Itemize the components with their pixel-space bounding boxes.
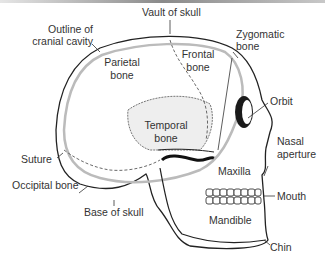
- label-vault-of-skull: Vault of skull: [142, 7, 201, 18]
- label-mouth: Mouth: [277, 191, 306, 202]
- label-chin: Chin: [270, 242, 292, 253]
- label-zygomatic-line1: Zygomatic: [236, 29, 284, 40]
- label-maxilla: Maxilla: [218, 166, 251, 177]
- label-frontal-line2: bone: [177, 62, 219, 73]
- label-zygomatic-line2: bone: [236, 41, 259, 52]
- label-occipital-bone: Occipital bone: [12, 180, 79, 191]
- label-parietal-line1: Parietal: [100, 57, 144, 68]
- label-outline-line2: cranial cavity: [20, 36, 93, 47]
- label-temporal-line2: bone: [140, 133, 192, 144]
- label-nasal-line1: Nasal: [277, 136, 304, 147]
- label-temporal-line1: Temporal: [140, 120, 192, 131]
- label-orbit: Orbit: [270, 96, 293, 107]
- label-frontal-line1: Frontal: [177, 49, 219, 60]
- label-parietal-line2: bone: [100, 70, 144, 81]
- label-mandible: Mandible: [209, 215, 252, 226]
- label-base-of-skull: Base of skull: [84, 207, 144, 218]
- label-suture: Suture: [21, 154, 52, 165]
- label-outline-line1: Outline of: [30, 24, 93, 35]
- label-nasal-line2: aperture: [277, 149, 316, 160]
